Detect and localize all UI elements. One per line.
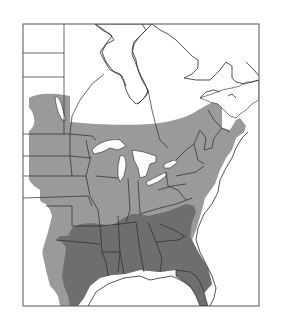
range-map [0, 0, 295, 332]
